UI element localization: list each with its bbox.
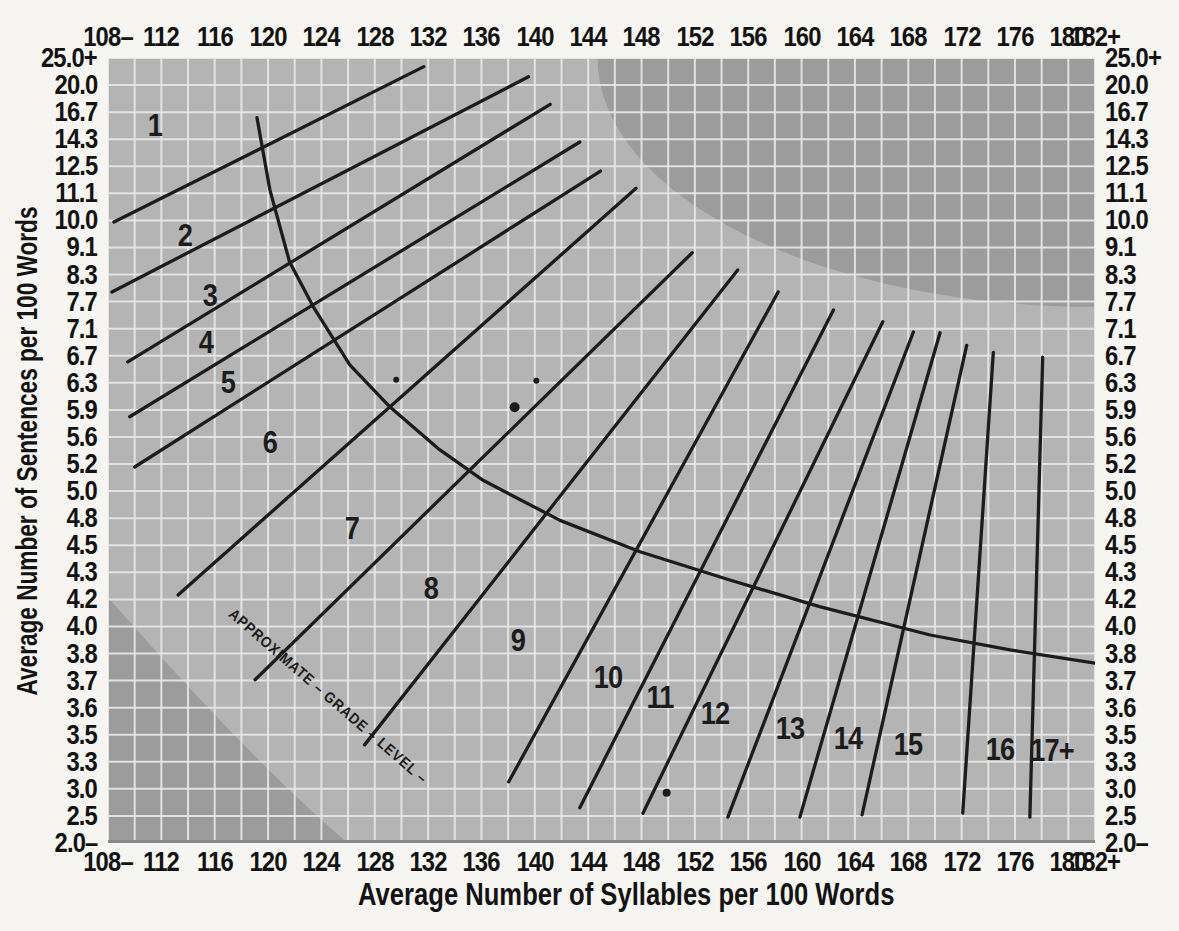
tick-bottom-156: 156 — [730, 848, 767, 876]
tick-bottom-168: 168 — [890, 848, 927, 876]
data-point — [663, 789, 671, 797]
tick-bottom-182+: 182+ — [1070, 848, 1120, 876]
tick-top-156: 156 — [730, 23, 767, 51]
tick-right-3.6: 3.6 — [1105, 694, 1136, 722]
tick-left-8.3: 8.3 — [66, 261, 97, 289]
tick-top-168: 168 — [890, 23, 927, 51]
tick-left-5.6: 5.6 — [66, 423, 97, 451]
tick-left-5.0: 5.0 — [66, 477, 97, 505]
plot-canvas — [108, 58, 1095, 843]
tick-bottom-176: 176 — [996, 848, 1033, 876]
tick-left-7.7: 7.7 — [66, 288, 97, 316]
tick-right-6.7: 6.7 — [1105, 342, 1136, 370]
tick-right-12.5: 12.5 — [1105, 152, 1148, 180]
tick-right-7.1: 7.1 — [1105, 315, 1136, 343]
tick-left-5.9: 5.9 — [66, 396, 97, 424]
tick-left-4.8: 4.8 — [66, 504, 97, 532]
invalid-region-bottom-left — [108, 597, 348, 843]
tick-right-5.2: 5.2 — [1105, 450, 1136, 478]
tick-left-3.3: 3.3 — [66, 748, 97, 776]
tick-bottom-136: 136 — [463, 848, 500, 876]
invalid-region-top-right — [598, 58, 1095, 307]
grade-line-10 — [580, 310, 834, 808]
tick-bottom-140: 140 — [516, 848, 553, 876]
tick-top-124: 124 — [303, 23, 340, 51]
tick-right-5.6: 5.6 — [1105, 423, 1136, 451]
tick-right-3.7: 3.7 — [1105, 667, 1136, 695]
x-axis-ticks-bottom: 108–112116120124128132136140144148152156… — [108, 848, 1095, 876]
tick-left-16.7: 16.7 — [54, 98, 97, 126]
tick-bottom-160: 160 — [783, 848, 820, 876]
tick-right-5.9: 5.9 — [1105, 396, 1136, 424]
tick-left-3.0: 3.0 — [66, 775, 97, 803]
tick-top-128: 128 — [356, 23, 393, 51]
tick-bottom-144: 144 — [570, 848, 607, 876]
tick-right-3.3: 3.3 — [1105, 748, 1136, 776]
tick-left-6.7: 6.7 — [66, 342, 97, 370]
tick-right-16.7: 16.7 — [1105, 98, 1148, 126]
tick-right-8.3: 8.3 — [1105, 261, 1136, 289]
tick-right-3.0: 3.0 — [1105, 775, 1136, 803]
tick-right-4.0: 4.0 — [1105, 612, 1136, 640]
tick-bottom-112: 112 — [143, 848, 179, 876]
y-axis-title-text: Average Number of Sentences per 100 Word… — [11, 206, 44, 695]
tick-bottom-172: 172 — [943, 848, 980, 876]
tick-left-2.5: 2.5 — [66, 802, 97, 830]
tick-right-10.0: 10.0 — [1105, 206, 1148, 234]
tick-left-14.3: 14.3 — [54, 125, 97, 153]
tick-right-3.5: 3.5 — [1105, 721, 1136, 749]
x-axis-ticks-top: 108–112116120124128132136140144148152156… — [108, 23, 1095, 51]
tick-top-164: 164 — [836, 23, 873, 51]
tick-top-136: 136 — [463, 23, 500, 51]
x-axis-title: Average Number of Syllables per 100 Word… — [133, 876, 1120, 913]
plot-bottom-edge — [108, 840, 1095, 843]
tick-right-7.7: 7.7 — [1105, 288, 1136, 316]
tick-right-25.0+: 25.0+ — [1105, 44, 1161, 72]
tick-left-10.0: 10.0 — [54, 206, 97, 234]
tick-right-4.8: 4.8 — [1105, 504, 1136, 532]
grade-line-11 — [643, 322, 883, 813]
tick-bottom-120: 120 — [249, 848, 286, 876]
tick-top-152: 152 — [676, 23, 713, 51]
tick-right-3.8: 3.8 — [1105, 640, 1136, 668]
tick-left-6.3: 6.3 — [66, 369, 97, 397]
tick-right-9.1: 9.1 — [1105, 233, 1136, 261]
tick-right-4.5: 4.5 — [1105, 531, 1136, 559]
tick-bottom-148: 148 — [623, 848, 660, 876]
tick-bottom-164: 164 — [836, 848, 873, 876]
tick-bottom-128: 128 — [356, 848, 393, 876]
tick-bottom-124: 124 — [303, 848, 340, 876]
tick-right-5.0: 5.0 — [1105, 477, 1136, 505]
tick-left-3.8: 3.8 — [66, 640, 97, 668]
data-point — [510, 402, 520, 412]
tick-left-12.5: 12.5 — [54, 152, 97, 180]
tick-right-20.0: 20.0 — [1105, 71, 1148, 99]
tick-top-176: 176 — [996, 23, 1033, 51]
tick-left-11.1: 11.1 — [55, 179, 97, 207]
grade-line-2 — [112, 77, 529, 292]
y-axis-ticks-right: 25.0+20.016.714.312.511.110.09.18.37.77.… — [1100, 58, 1179, 843]
tick-top-116: 116 — [197, 23, 233, 51]
tick-left-3.5: 3.5 — [66, 721, 97, 749]
x-axis-title-text: Average Number of Syllables per 100 Word… — [358, 876, 894, 913]
tick-left-3.6: 3.6 — [66, 694, 97, 722]
tick-left-20.0: 20.0 — [54, 71, 97, 99]
tick-bottom-116: 116 — [197, 848, 233, 876]
tick-bottom-132: 132 — [409, 848, 446, 876]
grade-line-3 — [128, 104, 550, 361]
tick-right-4.3: 4.3 — [1105, 558, 1136, 586]
tick-top-112: 112 — [143, 23, 179, 51]
tick-right-14.3: 14.3 — [1105, 125, 1148, 153]
tick-bottom-152: 152 — [676, 848, 713, 876]
data-point — [533, 378, 539, 384]
tick-top-172: 172 — [943, 23, 980, 51]
tick-left-4.3: 4.3 — [66, 558, 97, 586]
tick-top-120: 120 — [249, 23, 286, 51]
plot-area: 1234567891011121314151617+ APPROXIMATE –… — [108, 58, 1095, 843]
tick-left-3.7: 3.7 — [66, 667, 97, 695]
tick-top-132: 132 — [409, 23, 446, 51]
tick-bottom-108–: 108– — [83, 848, 133, 876]
tick-top-144: 144 — [570, 23, 607, 51]
tick-left-4.5: 4.5 — [66, 531, 97, 559]
tick-right-4.2: 4.2 — [1105, 585, 1136, 613]
